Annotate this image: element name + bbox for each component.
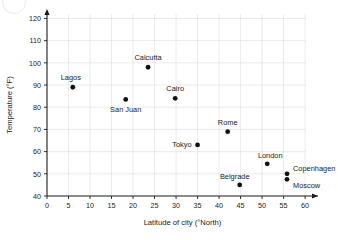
x-tick-label: 50 [258, 201, 266, 210]
data-point-label: Belgrade [220, 172, 250, 181]
y-tick-label: 100 [29, 59, 41, 68]
y-tick-label: 80 [33, 103, 41, 112]
data-point-group[interactable]: Rome [218, 118, 238, 134]
data-point-marker[interactable] [225, 129, 230, 134]
data-point-group[interactable]: Cairo [166, 84, 184, 100]
y-axis-arrow-icon [44, 9, 49, 15]
data-point-marker[interactable] [70, 85, 75, 90]
x-tick-label: 10 [86, 201, 94, 210]
y-tick-label: 70 [33, 125, 41, 134]
data-point-marker[interactable] [265, 161, 270, 166]
data-point-group[interactable]: Calcutta [135, 53, 163, 69]
x-tick-label: 5 [67, 201, 71, 210]
data-point-marker[interactable] [123, 97, 128, 102]
y-axis-title: Temperature (°F) [5, 76, 14, 134]
x-tick-label: 30 [172, 201, 180, 210]
x-tick-label: 20 [129, 201, 137, 210]
data-point-label: San Juan [110, 105, 141, 114]
data-point-label: Moscow [293, 181, 321, 190]
data-point-label: Rome [218, 118, 238, 127]
data-point-label: Copenhagen [293, 164, 335, 173]
x-axis-arrow-icon [312, 193, 318, 198]
y-tick-label: 120 [29, 14, 41, 23]
data-point-marker[interactable] [237, 183, 242, 188]
x-tick-label: 40 [215, 201, 223, 210]
x-tick-label: 60 [301, 201, 309, 210]
x-tick-label: 0 [45, 201, 49, 210]
x-tick-label: 25 [151, 201, 159, 210]
y-tick-label: 50 [33, 170, 41, 179]
data-point-label: Cairo [166, 84, 184, 93]
y-tick-label: 90 [33, 81, 41, 90]
data-point-group[interactable]: San Juan [110, 97, 141, 114]
data-point-group[interactable]: Copenhagen [285, 164, 336, 176]
data-point-label: Lagos [61, 73, 81, 82]
plot-area: 0510152025303540455055604050607080901001… [0, 0, 338, 240]
x-tick-label: 15 [108, 201, 116, 210]
data-point-label: Calcutta [135, 53, 163, 62]
data-point-group[interactable]: Lagos [61, 73, 81, 89]
data-point-label: Tokyo [172, 140, 191, 149]
data-point-marker[interactable] [195, 143, 200, 148]
y-tick-label: 110 [30, 36, 41, 45]
y-tick-label: 40 [33, 192, 41, 201]
x-tick-label: 45 [237, 201, 245, 210]
data-point-label: London [258, 151, 283, 160]
data-point-marker[interactable] [285, 171, 290, 176]
data-point-group[interactable]: Belgrade [220, 172, 250, 187]
data-point-group[interactable]: London [258, 151, 283, 166]
data-point-marker[interactable] [285, 177, 290, 182]
x-tick-label: 35 [194, 201, 202, 210]
data-point-group[interactable]: Tokyo [172, 140, 200, 149]
data-point-marker[interactable] [173, 96, 178, 101]
y-tick-label: 60 [33, 147, 41, 156]
data-point-marker[interactable] [146, 65, 151, 70]
x-tick-label: 55 [280, 201, 288, 210]
data-point-group[interactable]: Moscow [285, 177, 321, 190]
x-axis-title: Latitude of city (°North) [144, 218, 222, 227]
scatter-chart: 0510152025303540455055604050607080901001… [0, 0, 338, 240]
